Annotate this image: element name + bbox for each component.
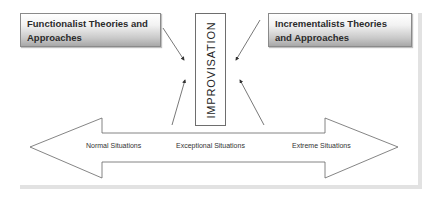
arrow-incrementalist-top (236, 20, 260, 60)
improvisation-label: IMPROVISATION (205, 21, 217, 118)
arrow-functionalist-top (163, 28, 184, 60)
arrow-functionalist-bottom (172, 80, 185, 125)
functionalist-theories-box: Functionalist Theories and Approaches (20, 13, 161, 47)
normal-situations-label: Normal Situations (86, 142, 141, 149)
incrementalist-label-line2: and Approaches (275, 31, 405, 45)
exceptional-situations-label: Exceptional Situations (176, 142, 245, 149)
arrow-incrementalist-bottom (240, 80, 264, 125)
improvisation-diagram: Functionalist Theories and Approaches In… (0, 0, 440, 201)
improvisation-box: IMPROVISATION (195, 13, 226, 126)
functionalist-label-line1: Functionalist Theories and (27, 17, 154, 31)
incrementalist-theories-box: Incrementalists Theories and Approaches (268, 13, 412, 47)
functionalist-label-line2: Approaches (27, 31, 154, 45)
extreme-situations-label: Extreme Situations (292, 142, 351, 149)
incrementalist-label-line1: Incrementalists Theories (275, 17, 405, 31)
